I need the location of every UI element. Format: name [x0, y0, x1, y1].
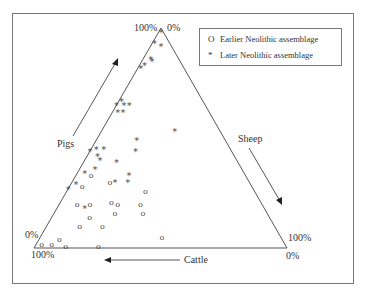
left-cattle-100-label: 100%: [31, 250, 54, 260]
legend-label-earlier: Earlier Neolithic assemblage: [220, 34, 318, 44]
legend-item-earlier: OEarlier Neolithic assemblage: [208, 34, 318, 44]
earlier-neolithic-point: o: [113, 209, 118, 218]
later-neolithic-point: *: [159, 28, 164, 38]
later-neolithic-point: *: [83, 169, 88, 179]
later-neolithic-point: *: [152, 39, 157, 49]
later-neolithic-point: *: [74, 180, 79, 190]
later-neolithic-point: *: [88, 147, 93, 157]
cattle-arrow: [104, 257, 180, 263]
later-neolithic-point: *: [98, 156, 103, 166]
earlier-neolithic-point: o: [143, 187, 148, 196]
cattle-axis-label: Cattle: [184, 255, 208, 265]
right-sheep-100-label: 100%: [288, 233, 311, 243]
earlier-neolithic-point: o: [138, 200, 143, 209]
earlier-neolithic-point: o: [159, 233, 164, 242]
later-neolithic-point: *: [172, 127, 177, 137]
left-pigs-0-label: 0%: [25, 230, 38, 240]
later-neolithic-point: *: [113, 178, 118, 188]
asterisk-marker-icon: *: [208, 50, 220, 60]
later-neolithic-point: *: [159, 42, 164, 52]
later-neolithic-point: *: [150, 57, 155, 67]
later-neolithic-point: *: [133, 147, 138, 157]
earlier-neolithic-point: o: [77, 222, 82, 231]
later-neolithic-point: *: [121, 108, 126, 118]
earlier-neolithic-point: o: [57, 235, 62, 244]
earlier-neolithic-point: o: [100, 222, 105, 231]
later-neolithic-point: *: [134, 136, 139, 146]
legend-item-later: *Later Neolithic assemblage: [208, 50, 313, 60]
earlier-neolithic-point: o: [115, 200, 120, 209]
earlier-neolithic-point: o: [63, 242, 68, 251]
later-neolithic-point: *: [102, 145, 107, 155]
earlier-neolithic-point: o: [80, 182, 85, 191]
apex-sheep-0-label: 0%: [167, 23, 180, 33]
legend-label-later: Later Neolithic assemblage: [220, 50, 313, 60]
later-neolithic-point: *: [142, 61, 147, 71]
apex-pigs-100-label: 100%: [134, 23, 157, 33]
later-neolithic-point: *: [93, 165, 98, 175]
earlier-neolithic-point: o: [87, 213, 92, 222]
earlier-neolithic-point: o: [96, 242, 101, 251]
earlier-neolithic-point: o: [39, 240, 44, 249]
pigs-arrow: [73, 58, 118, 136]
later-neolithic-point: *: [126, 178, 131, 188]
right-cattle-0-label: 0%: [286, 251, 299, 261]
circle-marker-icon: O: [208, 34, 220, 44]
later-neolithic-point: *: [114, 158, 119, 168]
later-neolithic-point: *: [127, 101, 132, 111]
earlier-neolithic-point: o: [108, 178, 113, 187]
earlier-neolithic-point: o: [49, 240, 54, 249]
pigs-axis-label: Pigs: [57, 139, 74, 149]
earlier-neolithic-point: o: [140, 209, 145, 218]
sheep-axis-label: Sheep: [238, 134, 262, 144]
earlier-neolithic-point: o: [75, 200, 80, 209]
sheep-arrow: [249, 148, 282, 205]
earlier-neolithic-point: o: [87, 200, 92, 209]
later-neolithic-point: *: [66, 185, 71, 195]
later-neolithic-point: *: [82, 204, 87, 214]
legend: OEarlier Neolithic assemblage *Later Neo…: [199, 28, 342, 66]
earlier-neolithic-point: o: [109, 198, 114, 207]
